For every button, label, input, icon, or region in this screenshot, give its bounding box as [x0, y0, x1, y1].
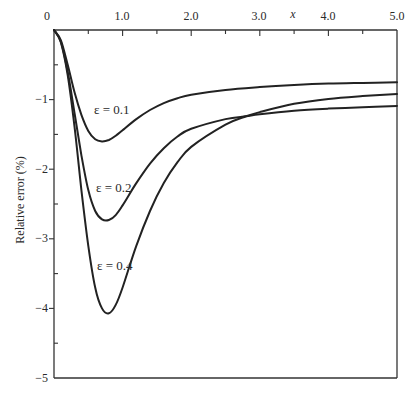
- x-tick-label-1: 1.0: [115, 9, 130, 23]
- x-tick-label-5: 5.0: [390, 9, 405, 23]
- x-tick-label-0: 0: [44, 9, 50, 23]
- x-tick-label-3: 3.0: [252, 9, 267, 23]
- curve-label-epsilon-0-2: ε = 0.2: [96, 180, 132, 195]
- y-tick-label-5: −5: [35, 371, 48, 385]
- y-axis-title: Relative error (%): [13, 156, 27, 243]
- chart-canvas: 0 1.0 2.0 3.0 4.0 5.0 x −1 −2 −3 −4 −5 R…: [0, 0, 417, 400]
- y-tick-label-2: −2: [35, 162, 48, 176]
- x-tick-labels: 0 1.0 2.0 3.0 4.0 5.0: [44, 9, 405, 23]
- x-tick-label-2: 2.0: [184, 9, 199, 23]
- y-tick-label-1: −1: [35, 92, 48, 106]
- y-tick-label-3: −3: [35, 231, 48, 245]
- x-tick-label-4: 4.0: [321, 9, 336, 23]
- curve-label-epsilon-0-4: ε = 0.4: [97, 258, 133, 273]
- x-ticks: [88, 30, 362, 36]
- x-axis-title: x: [289, 7, 296, 21]
- y-tick-label-4: −4: [35, 301, 48, 315]
- y-tick-labels: −1 −2 −3 −4 −5: [35, 92, 48, 385]
- curve-label-epsilon-0-1: ε = 0.1: [94, 102, 130, 117]
